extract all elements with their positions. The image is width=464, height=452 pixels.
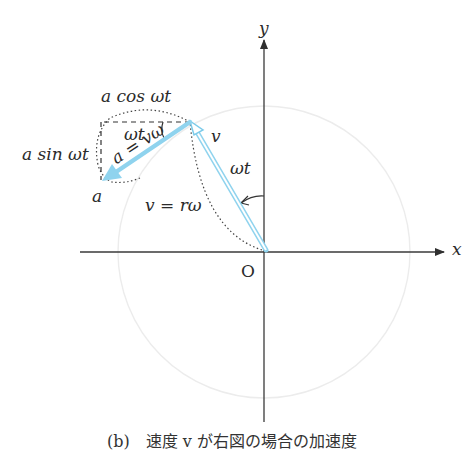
velocity-equation-label: v = rω xyxy=(145,197,202,214)
origin-label: O xyxy=(241,263,255,280)
y-axis-label: y xyxy=(259,20,269,37)
angle-right-label: ωt xyxy=(230,160,251,177)
x-axis-label: x xyxy=(452,241,462,258)
velocity-tip-label: v xyxy=(211,128,221,145)
velocity-vector xyxy=(190,121,266,250)
acceleration-tip-label: a xyxy=(92,188,102,205)
figure-caption: (b) 速度 v が右図の場合の加速度 xyxy=(0,428,464,452)
a-cos-label: a cos ωt xyxy=(101,88,171,105)
a-sin-label: a sin ωt xyxy=(22,146,89,163)
